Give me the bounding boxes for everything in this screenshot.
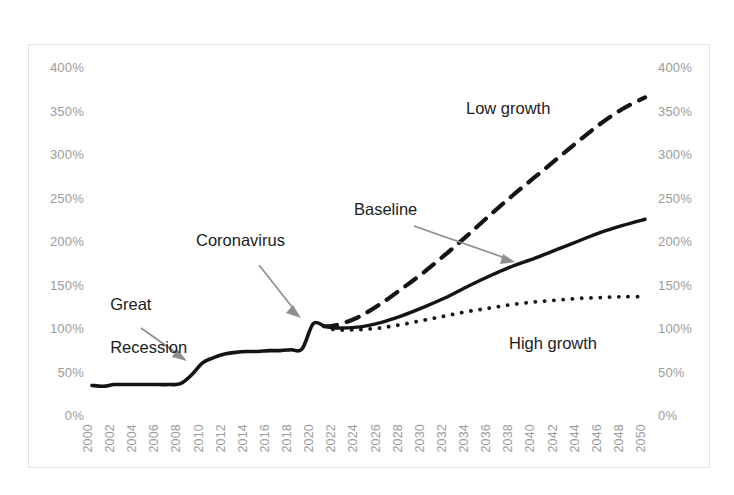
x-tick-year: 2022: [324, 424, 338, 453]
x-tick-year: 2030: [413, 424, 427, 453]
annotation-baseline: Baseline: [354, 199, 417, 221]
y-tick-right: 250%: [658, 191, 692, 206]
y-tick-left: 0%: [65, 408, 84, 423]
y-tick-right: 300%: [658, 147, 692, 162]
y-tick-left: 400%: [50, 60, 84, 75]
x-tick-year: 2042: [546, 424, 560, 453]
x-tick-year: 2036: [479, 424, 493, 453]
y-axis-left: 400%350%300%250%200%150%100%50%0%: [50, 60, 84, 423]
annotation-great-recession-line1: Great: [110, 295, 151, 313]
y-tick-right: 100%: [658, 321, 692, 336]
annotation-coronavirus: Coronavirus: [196, 230, 285, 252]
y-axis-right: 400%350%300%250%200%150%100%50%0%: [658, 60, 692, 423]
x-tick-year: 2016: [258, 424, 272, 453]
x-tick-year: 2050: [634, 424, 648, 453]
x-tick-year: 2002: [103, 424, 117, 453]
x-tick-year: 2020: [302, 424, 316, 453]
annotation-high-growth: High growth: [509, 333, 597, 355]
coronavirus-arrow: [259, 265, 301, 318]
x-tick-year: 2032: [435, 424, 449, 453]
y-tick-right: 350%: [658, 104, 692, 119]
x-tick-year: 2010: [192, 424, 206, 453]
line-chart: 400%350%300%250%200%150%100%50%0% 400%35…: [0, 0, 734, 495]
y-tick-left: 250%: [50, 191, 84, 206]
x-tick-year: 2008: [169, 424, 183, 453]
x-tick-year: 2014: [236, 424, 250, 453]
y-tick-left: 100%: [50, 321, 84, 336]
y-tick-left: 50%: [57, 365, 84, 380]
y-tick-left: 150%: [50, 278, 84, 293]
annotation-low-growth: Low growth: [466, 98, 550, 120]
x-tick-year: 2000: [81, 424, 95, 453]
x-tick-year: 2024: [346, 424, 360, 453]
x-tick-year: 2048: [612, 424, 626, 453]
x-tick-year: 2046: [590, 424, 604, 453]
x-tick-year: 2004: [125, 424, 139, 453]
x-tick-year: 2006: [147, 424, 161, 453]
y-tick-left: 350%: [50, 104, 84, 119]
x-tick-year: 2018: [280, 424, 294, 453]
x-tick-year: 2026: [369, 424, 383, 453]
baseline-arrow: [414, 226, 515, 264]
y-tick-left: 200%: [50, 234, 84, 249]
x-tick-year: 2012: [214, 424, 228, 453]
x-axis-years: 2000200220042006200820102012201420162018…: [81, 424, 648, 453]
x-tick-year: 2040: [523, 424, 537, 453]
annotation-great-recession: Great Recession: [101, 272, 187, 359]
x-tick-year: 2028: [391, 424, 405, 453]
x-tick-year: 2034: [457, 424, 471, 453]
x-tick-year: 2038: [501, 424, 515, 453]
y-tick-right: 200%: [658, 234, 692, 249]
y-tick-right: 400%: [658, 60, 692, 75]
y-tick-left: 300%: [50, 147, 84, 162]
x-tick-year: 2044: [568, 424, 582, 453]
series-baseline: [324, 219, 645, 328]
y-tick-right: 0%: [658, 408, 677, 423]
y-tick-right: 150%: [658, 278, 692, 293]
y-tick-right: 50%: [658, 365, 685, 380]
annotation-great-recession-line2: Recession: [110, 338, 187, 356]
